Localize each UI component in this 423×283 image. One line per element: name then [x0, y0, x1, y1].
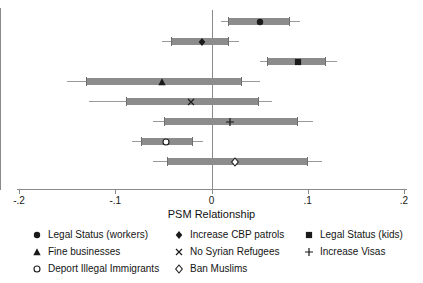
- psm-relationship-chart: -.2-.10.1.2 PSM Relationship Legal Statu…: [0, 0, 423, 283]
- confidence-interval-cap: [297, 117, 298, 126]
- estimate-row: [0, 115, 423, 129]
- legend-item[interactable]: No Syrian Refugees: [172, 243, 302, 260]
- confidence-interval-cap: [325, 57, 326, 66]
- legend-item-label: Legal Status (kids): [320, 229, 403, 241]
- x-tick-label: .2: [400, 195, 408, 207]
- legend-item[interactable]: Legal Status (kids): [302, 226, 412, 243]
- legend-item[interactable]: Increase Visas: [302, 243, 412, 260]
- point-estimate-marker: [155, 75, 169, 89]
- estimate-row: [0, 15, 423, 29]
- legend-item-label: Increase CBP patrols: [190, 229, 284, 241]
- confidence-interval-cap: [307, 157, 308, 166]
- legend-item[interactable]: Legal Status (workers): [30, 226, 172, 243]
- point-estimate-marker: [291, 55, 305, 69]
- estimate-row: [0, 95, 423, 109]
- confidence-interval-cap: [267, 57, 268, 66]
- x-axis-title: PSM Relationship: [0, 208, 423, 220]
- confidence-interval-cap: [241, 77, 242, 86]
- legend-item-label: Increase Visas: [320, 246, 385, 258]
- x-tick-label: -.2: [13, 195, 25, 207]
- confidence-interval-cap: [86, 77, 87, 86]
- point-estimate-marker: [223, 115, 237, 129]
- filled-diamond-icon: [172, 229, 186, 241]
- point-estimate-marker: [195, 35, 209, 49]
- confidence-interval-cap: [167, 157, 168, 166]
- estimate-row: [0, 55, 423, 69]
- legend-spacer: [302, 260, 412, 277]
- cross-x-icon: [172, 246, 186, 258]
- point-estimate-marker: [184, 95, 198, 109]
- legend-item[interactable]: Fine businesses: [30, 243, 172, 260]
- hollow-diamond-icon: [172, 263, 186, 275]
- legend-item-label: Ban Muslims: [190, 263, 247, 275]
- confidence-interval-cap: [289, 17, 290, 26]
- point-estimate-marker: [159, 135, 173, 149]
- point-estimate-marker: [253, 15, 267, 29]
- x-tick-label: .1: [304, 195, 312, 207]
- estimate-row: [0, 135, 423, 149]
- x-tick-mark: [19, 190, 20, 194]
- confidence-interval-cap: [258, 97, 259, 106]
- chart-legend: Legal Status (workers)Increase CBP patro…: [0, 226, 423, 283]
- x-tick-mark: [308, 190, 309, 194]
- estimate-row: [0, 155, 423, 169]
- legend-item-label: Fine businesses: [48, 246, 120, 258]
- legend-item-label: Deport Illegal Immigrants: [48, 263, 159, 275]
- confidence-interval-cap: [126, 97, 127, 106]
- confidence-interval-cap: [164, 117, 165, 126]
- x-tick-label: 0: [209, 195, 215, 207]
- legend-item[interactable]: Ban Muslims: [172, 260, 302, 277]
- filled-circle-icon: [30, 229, 44, 241]
- legend-grid: Legal Status (workers)Increase CBP patro…: [30, 226, 412, 277]
- point-estimate-marker: [228, 155, 242, 169]
- legend-item-label: Legal Status (workers): [48, 229, 148, 241]
- x-tick-mark: [115, 190, 116, 194]
- hollow-circle-icon: [30, 263, 44, 275]
- filled-square-icon: [302, 229, 316, 241]
- confidence-interval-cap: [228, 17, 229, 26]
- estimate-row: [0, 35, 423, 49]
- confidence-interval-cap: [141, 137, 142, 146]
- x-tick-label: -.1: [109, 195, 121, 207]
- filled-triangle-icon: [30, 246, 44, 258]
- x-tick-mark: [404, 190, 405, 194]
- legend-item-label: No Syrian Refugees: [190, 246, 280, 258]
- x-tick-mark: [212, 190, 213, 194]
- confidence-interval-cap: [192, 137, 193, 146]
- confidence-interval-cap: [171, 37, 172, 46]
- confidence-interval-cap: [228, 37, 229, 46]
- legend-item[interactable]: Increase CBP patrols: [172, 226, 302, 243]
- plus-icon: [302, 246, 316, 258]
- legend-item[interactable]: Deport Illegal Immigrants: [30, 260, 172, 277]
- estimate-row: [0, 75, 423, 89]
